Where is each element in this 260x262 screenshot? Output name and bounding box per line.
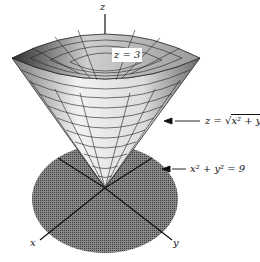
- z-axis-label: z: [100, 2, 105, 12]
- cone-diagram: z x y z = 3 z = √x² + y² x² + y² = 9: [0, 0, 260, 262]
- circle-equation-label: x² + y² = 9: [190, 164, 245, 174]
- cone-svg: [0, 0, 260, 262]
- y-axis-label: y: [173, 238, 179, 248]
- x-axis-label: x: [30, 238, 36, 248]
- cone-equation-label: z = √x² + y²: [205, 116, 260, 126]
- plane-label: z = 3: [112, 48, 142, 62]
